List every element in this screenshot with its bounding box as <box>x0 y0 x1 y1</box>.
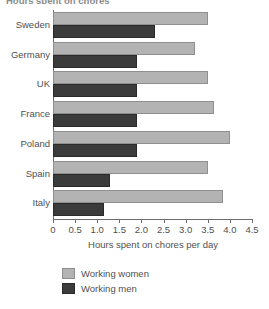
y-axis-tick-label: Germany <box>0 49 50 60</box>
x-axis-tick-mark <box>53 219 54 223</box>
y-axis-tick-label: Italy <box>0 197 50 208</box>
legend-color-swatch <box>62 268 75 279</box>
bar-group <box>53 190 252 218</box>
bar-group <box>53 12 252 40</box>
x-axis-tick-mark <box>208 219 209 223</box>
bar-working-women <box>53 131 230 144</box>
chart-legend: Working womenWorking men <box>62 266 242 296</box>
plot-area <box>53 10 252 218</box>
bar-working-men <box>53 55 137 68</box>
x-axis-tick-mark <box>75 219 76 223</box>
x-axis-tick-mark <box>141 219 142 223</box>
bar-working-men <box>53 25 155 38</box>
x-axis-tick-mark <box>230 219 231 223</box>
bar-working-men <box>53 144 137 157</box>
x-axis-tick-mark <box>97 219 98 223</box>
y-axis-tick-label: Sweden <box>0 19 50 30</box>
bar-working-women <box>53 42 195 55</box>
legend-label: Working men <box>81 283 137 294</box>
bar-chart-figure: Hours spent on chores SwedenGermanyUKFra… <box>0 0 269 309</box>
legend-color-swatch <box>62 283 75 294</box>
x-axis-title: Hours spent on chores per day <box>53 239 253 250</box>
x-axis-tick-mark <box>252 219 253 223</box>
y-axis-category-labels: SwedenGermanyUKFrancePolandSpainItaly <box>0 10 50 218</box>
y-axis-tick-label: Poland <box>0 138 50 149</box>
bar-working-men <box>53 114 137 127</box>
y-axis-tick-label: France <box>0 108 50 119</box>
legend-label: Working women <box>81 268 149 279</box>
legend-item: Working women <box>62 266 242 281</box>
bar-working-men <box>53 203 104 216</box>
bar-group <box>53 131 252 159</box>
x-axis-line <box>53 219 253 220</box>
y-axis-tick-label: Spain <box>0 168 50 179</box>
x-axis-tick-mark <box>186 219 187 223</box>
bar-group <box>53 101 252 129</box>
bar-working-women <box>53 101 214 114</box>
x-axis-tick-label: 4.5 <box>239 224 265 235</box>
bar-working-women <box>53 71 208 84</box>
bar-group <box>53 71 252 99</box>
x-axis-tick-mark <box>119 219 120 223</box>
bar-working-women <box>53 161 208 174</box>
bar-working-men <box>53 174 110 187</box>
bar-group <box>53 161 252 189</box>
y-axis-tick-label: UK <box>0 78 50 89</box>
bar-group <box>53 42 252 70</box>
bar-working-women <box>53 12 208 25</box>
legend-item: Working men <box>62 281 242 296</box>
x-axis-tick-mark <box>164 219 165 223</box>
bar-working-women <box>53 190 223 203</box>
bar-working-men <box>53 84 137 97</box>
clipped-header-text: Hours spent on chores <box>6 0 206 4</box>
